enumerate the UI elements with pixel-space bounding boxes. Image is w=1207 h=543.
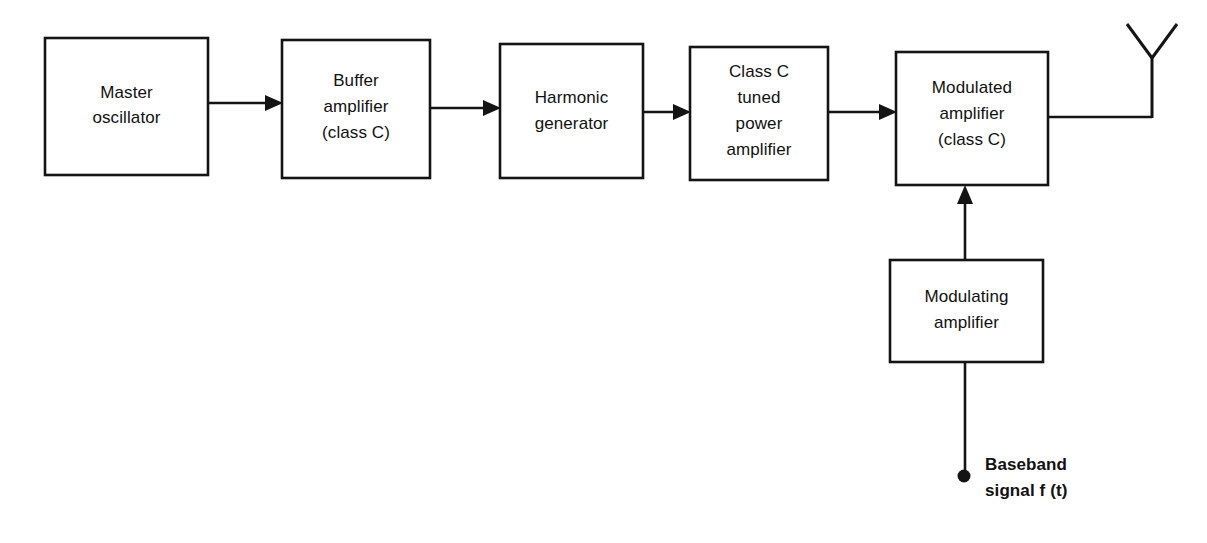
buffer-amplifier-label-line1: Buffer (333, 71, 379, 90)
block-outline (890, 260, 1043, 362)
block-outline (500, 44, 643, 178)
wire-oscillator-to-buffer (208, 95, 283, 111)
block-modulated-amplifier[interactable]: Modulated amplifier (class C) (896, 52, 1048, 185)
master-oscillator-label-line1: Master (100, 83, 153, 102)
harmonic-generator-label-line2: generator (535, 114, 609, 133)
block-class-c-tuned-power-amplifier[interactable]: Class C tuned power amplifier (690, 47, 828, 180)
arrow-head-icon (673, 104, 691, 120)
harmonic-generator-label-line1: Harmonic (535, 88, 609, 107)
buffer-amplifier-label-line3: (class C) (322, 123, 390, 142)
block-outline (45, 38, 208, 175)
block-buffer-amplifier[interactable]: Buffer amplifier (class C) (282, 40, 430, 178)
baseband-input-terminal[interactable]: Baseband signal f (t) (958, 455, 1068, 500)
class-c-label-line2: tuned (737, 88, 780, 107)
baseband-label-line1: Baseband (985, 455, 1067, 474)
wire-classc-to-modulated (828, 104, 897, 120)
modulating-amplifier-label-line2: amplifier (934, 313, 999, 332)
buffer-amplifier-label-line2: amplifier (323, 97, 388, 116)
am-transmitter-diagram: Baseband signal f (t) Master oscillator … (0, 0, 1207, 543)
wire-harmonic-to-classc (643, 104, 691, 120)
arrow-head-icon (879, 104, 897, 120)
baseband-label-line2: signal f (t) (985, 481, 1067, 500)
block-diagram-canvas: Baseband signal f (t) Master oscillator … (0, 0, 1207, 543)
block-modulating-amplifier[interactable]: Modulating amplifier (890, 260, 1043, 362)
modulated-amplifier-label-line3: (class C) (938, 130, 1006, 149)
master-oscillator-label-line2: oscillator (92, 108, 160, 127)
class-c-label-line4: amplifier (726, 140, 791, 159)
arrow-head-icon (265, 95, 283, 111)
wire-modulating-to-modulated (957, 185, 973, 260)
modulating-amplifier-label-line1: Modulating (924, 287, 1008, 306)
modulated-amplifier-label-line2: amplifier (939, 104, 1004, 123)
terminal-dot-icon (958, 470, 971, 483)
arrow-head-icon (483, 100, 501, 116)
class-c-label-line3: power (736, 114, 783, 133)
block-harmonic-generator[interactable]: Harmonic generator (500, 44, 643, 178)
class-c-label-line1: Class C (729, 62, 789, 81)
wire-buffer-to-harmonic (430, 100, 501, 116)
arrow-head-icon (957, 185, 973, 204)
modulated-amplifier-label-line1: Modulated (932, 78, 1012, 97)
antenna-icon (1127, 24, 1177, 118)
block-master-oscillator[interactable]: Master oscillator (45, 38, 208, 175)
